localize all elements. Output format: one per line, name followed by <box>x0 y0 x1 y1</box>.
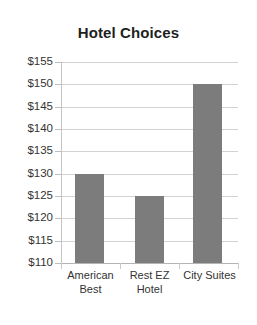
x-axis-line <box>61 263 239 264</box>
y-tick-150 <box>55 84 61 85</box>
y-tick-120 <box>55 218 61 219</box>
y-tick-155 <box>55 62 61 63</box>
y-axis-label-140: $140 <box>6 123 53 135</box>
x-axis-label-line-2: Best <box>61 282 120 296</box>
gridline-155 <box>61 62 238 63</box>
y-axis-label-110: $110 <box>6 257 53 269</box>
x-axis-label-city-suites: City Suites <box>179 268 240 282</box>
chart-title: Hotel Choices <box>0 24 257 41</box>
plot-area <box>61 62 238 263</box>
y-axis-label-115: $115 <box>6 235 53 247</box>
x-axis-label-line-1: American <box>61 268 120 282</box>
y-axis-line <box>61 62 62 264</box>
y-axis-label-135: $135 <box>6 145 53 157</box>
y-tick-145 <box>55 107 61 108</box>
x-axis-label-line-1: Rest EZ <box>120 268 179 282</box>
y-axis-label-120: $120 <box>6 212 53 224</box>
bar-rest-ez-hotel <box>135 196 164 263</box>
y-axis-label-155: $155 <box>6 56 53 68</box>
bar-american-best <box>75 174 104 263</box>
bar-city-suites <box>193 84 222 263</box>
x-axis-label-american-best: American Best <box>61 268 120 296</box>
y-axis-label-130: $130 <box>6 168 53 180</box>
y-tick-125 <box>55 196 61 197</box>
y-axis-label-125: $125 <box>6 190 53 202</box>
y-tick-140 <box>55 129 61 130</box>
bar-chart: Hotel Choices $155 $150 $145 $140 $135 $… <box>0 0 257 325</box>
y-axis-label-145: $145 <box>6 101 53 113</box>
x-axis-label-rest-ez-hotel: Rest EZ Hotel <box>120 268 179 296</box>
x-axis-label-line-2: Hotel <box>120 282 179 296</box>
y-tick-135 <box>55 151 61 152</box>
y-axis-label-150: $150 <box>6 78 53 90</box>
y-tick-115 <box>55 241 61 242</box>
y-tick-130 <box>55 174 61 175</box>
x-axis-label-line-1: City Suites <box>179 268 240 282</box>
